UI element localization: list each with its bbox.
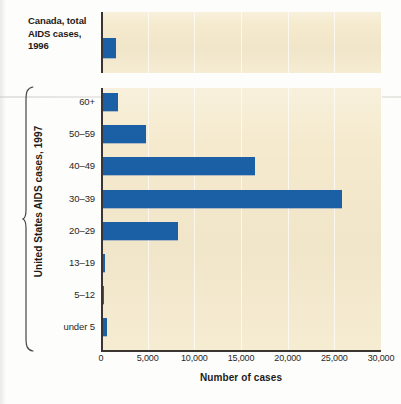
canada-y-axis-line bbox=[101, 12, 103, 73]
x-axis-tick-labels: 05,00010,00015,00020,00025,00030,000 bbox=[101, 352, 381, 366]
bar-40-49 bbox=[101, 157, 255, 175]
gridline-5000 bbox=[148, 12, 149, 73]
gridline-15000 bbox=[241, 88, 242, 350]
us-plot-area bbox=[101, 88, 381, 350]
bar-20-29 bbox=[101, 222, 178, 240]
scan-edge-artifact bbox=[0, 0, 6, 404]
gridline-30000 bbox=[381, 12, 382, 73]
gridline-25000 bbox=[334, 88, 335, 350]
x-tick-20000: 20,000 bbox=[274, 352, 301, 364]
category-label-30-39: 30–39 bbox=[31, 194, 95, 204]
category-label-20-29: 20–29 bbox=[31, 226, 95, 236]
category-label-60-: 60+ bbox=[31, 97, 95, 107]
category-label-5-12: 5–12 bbox=[31, 290, 95, 300]
x-tick-5000: 5,000 bbox=[137, 352, 159, 364]
category-label-13-19: 13–19 bbox=[31, 258, 95, 268]
x-tick-30000: 30,000 bbox=[368, 352, 395, 364]
gridline-20000 bbox=[288, 12, 289, 73]
x-tick-10000: 10,000 bbox=[181, 352, 208, 364]
category-label-40-49: 40–49 bbox=[31, 161, 95, 171]
gridline-20000 bbox=[288, 88, 289, 350]
bar-60- bbox=[101, 93, 118, 111]
bar-canada-total bbox=[101, 38, 116, 58]
gridline-15000 bbox=[241, 12, 242, 73]
us-y-axis-line bbox=[101, 88, 103, 350]
x-tick-15000: 15,000 bbox=[228, 352, 255, 364]
gridline-5000 bbox=[148, 88, 149, 350]
aids-cases-bar-chart-figure: Canada, total AIDS cases, 1996 United St… bbox=[0, 0, 401, 404]
category-label-under-5: under 5 bbox=[31, 322, 95, 332]
x-axis-title: Number of cases bbox=[101, 372, 381, 383]
bar-50-59 bbox=[101, 125, 146, 143]
category-label-50-59: 50–59 bbox=[31, 129, 95, 139]
gridline-30000 bbox=[381, 88, 382, 350]
x-tick-0: 0 bbox=[99, 352, 104, 364]
category-labels: 60+50–5940–4930–3920–2913–195–12under 5 bbox=[29, 88, 95, 350]
gridline-10000 bbox=[194, 88, 195, 350]
gridline-10000 bbox=[194, 12, 195, 73]
canada-panel-label: Canada, total AIDS cases, 1996 bbox=[28, 15, 96, 53]
x-tick-25000: 25,000 bbox=[321, 352, 348, 364]
gridline-25000 bbox=[334, 12, 335, 73]
bar-30-39 bbox=[101, 190, 342, 208]
canada-plot-area bbox=[101, 12, 381, 73]
